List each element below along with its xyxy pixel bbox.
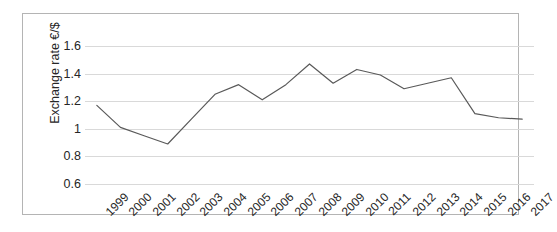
x-tick-label: 2007 bbox=[292, 190, 321, 219]
x-tick-label: 2017 bbox=[528, 190, 557, 219]
x-tick-label: 2015 bbox=[481, 190, 510, 219]
x-tick-label: 2001 bbox=[150, 190, 179, 219]
y-axis-tick-labels: 0.60.811.21.41.6 bbox=[41, 46, 81, 184]
x-tick-label: 2004 bbox=[221, 190, 250, 219]
x-tick-label: 2012 bbox=[410, 190, 439, 219]
y-tick-label: 1 bbox=[45, 123, 81, 136]
x-tick-label: 2016 bbox=[504, 190, 533, 219]
y-tick-label: 0.8 bbox=[45, 150, 81, 163]
x-tick-label: 2011 bbox=[386, 190, 414, 218]
plot-area bbox=[85, 46, 534, 184]
y-tick-label: 1.6 bbox=[45, 40, 81, 53]
x-tick-label: 2010 bbox=[363, 190, 392, 219]
x-tick-label: 2009 bbox=[339, 190, 368, 219]
x-axis-tick-labels: 1999200020012002200320042005200620072008… bbox=[85, 186, 534, 226]
y-tick-label: 0.6 bbox=[45, 178, 81, 191]
x-tick-label: 2000 bbox=[126, 190, 155, 219]
x-tick-label: 2013 bbox=[433, 190, 462, 219]
x-tick-label: 2002 bbox=[174, 190, 203, 219]
x-tick-label: 2003 bbox=[197, 190, 226, 219]
exchange-rate-line bbox=[97, 64, 522, 144]
x-tick-label: 2008 bbox=[315, 190, 344, 219]
x-tick-label: 2005 bbox=[244, 190, 273, 219]
chart-container: Exchange rate €/$ 0.60.811.21.41.6 19992… bbox=[22, 13, 519, 215]
x-tick-label: 2006 bbox=[268, 190, 297, 219]
line-series bbox=[85, 46, 534, 184]
x-axis-line bbox=[85, 184, 534, 185]
x-tick-label: 1999 bbox=[103, 190, 132, 219]
y-tick-label: 1.2 bbox=[45, 95, 81, 108]
x-tick-label: 2014 bbox=[457, 190, 486, 219]
y-tick-label: 1.4 bbox=[45, 67, 81, 80]
